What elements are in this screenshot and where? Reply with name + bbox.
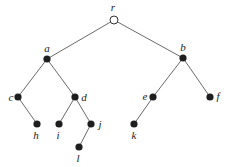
tree-nodes	[14, 16, 213, 151]
node-k	[130, 120, 137, 127]
node-d	[71, 93, 78, 100]
edge-b-e	[153, 58, 183, 97]
edge-r-b	[114, 20, 183, 58]
label-f: f	[216, 90, 221, 102]
label-a: a	[44, 42, 50, 54]
node-c	[14, 93, 21, 100]
label-i: i	[56, 129, 59, 141]
node-r	[110, 16, 118, 24]
edge-b-f	[183, 58, 210, 97]
node-a	[43, 55, 50, 62]
label-r: r	[111, 1, 116, 13]
label-h: h	[33, 129, 39, 141]
label-l: l	[76, 152, 79, 164]
label-k: k	[132, 129, 138, 141]
node-l	[75, 143, 82, 150]
edge-j-l	[79, 124, 91, 147]
node-h	[33, 120, 40, 127]
edge-d-i	[59, 97, 75, 124]
tree-diagram: rabcdefhijkl	[0, 0, 229, 167]
node-i	[55, 120, 62, 127]
node-f	[206, 93, 213, 100]
edge-r-a	[47, 20, 114, 59]
edge-c-h	[18, 97, 37, 124]
node-b	[179, 54, 186, 61]
node-j	[87, 120, 94, 127]
tree-labels: rabcdefhijkl	[9, 1, 222, 164]
label-j: j	[96, 118, 101, 130]
label-e: e	[143, 90, 148, 102]
edge-a-c	[18, 59, 47, 97]
edge-a-d	[47, 59, 75, 97]
label-c: c	[9, 91, 14, 103]
label-d: d	[81, 91, 87, 103]
label-b: b	[180, 41, 186, 53]
tree-edges	[18, 20, 210, 147]
node-e	[149, 93, 156, 100]
